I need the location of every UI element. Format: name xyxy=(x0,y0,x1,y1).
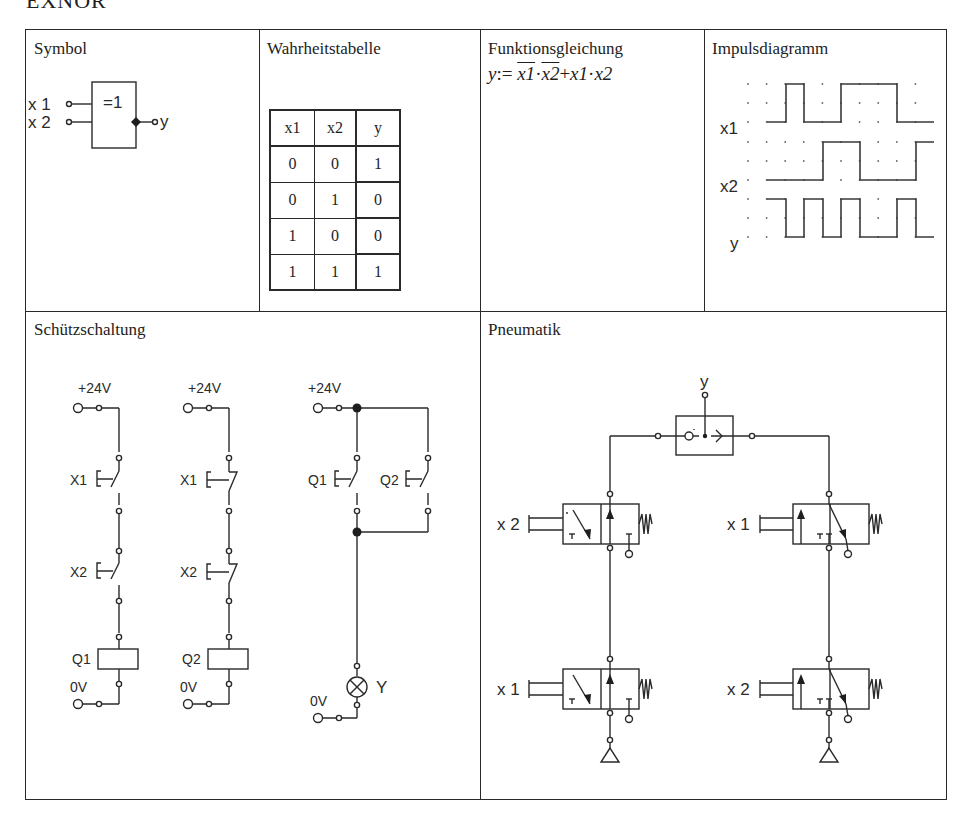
signal-x1-trace xyxy=(767,84,934,122)
page-title: EXNOR xyxy=(26,0,107,14)
supply-plus-label-3: +24V xyxy=(308,380,342,396)
branch-3 xyxy=(314,404,431,723)
cell-symbol: Symbol =1 x 1 x 2 y xyxy=(26,30,259,311)
flow-arrow-icon xyxy=(584,694,591,704)
eq-term1-a: x1 xyxy=(517,63,535,84)
table-row: 1 0 0 xyxy=(270,218,400,254)
valve-label-upper-left: x 2 xyxy=(497,515,520,534)
flow-arrow-icon xyxy=(606,509,614,519)
input-label-x2: x 2 xyxy=(28,113,51,132)
negation-dot-icon xyxy=(131,117,141,127)
valve-label-lower-right: x 2 xyxy=(727,680,750,699)
contact-label: Q2 xyxy=(380,472,399,488)
supply-plus-label-2: +24V xyxy=(188,380,222,396)
function-equation-title: Funktionsgleichung xyxy=(488,39,623,59)
eq-term2-b: x2 xyxy=(594,63,612,84)
pneumatics-diagram: y x 2 x 1 x 1 x 2 xyxy=(480,311,946,799)
coil-label-q2: Q2 xyxy=(182,651,201,667)
cell-x2: 1 xyxy=(315,254,357,290)
junction-dot-icon xyxy=(353,528,362,537)
contact-label: X2 xyxy=(70,564,87,580)
table-row: 1 1 1 xyxy=(270,254,400,290)
cell-y: 0 xyxy=(356,182,400,218)
cell-truth-table: Wahrheitstabelle x1 x2 y 0 0 1 0 1 0 1 0… xyxy=(259,30,480,311)
cell-x1: 0 xyxy=(270,146,315,182)
exnor-overview-grid: Symbol =1 x 1 x 2 y Wahrheitstabelle x1 xyxy=(25,29,947,800)
cell-y: 1 xyxy=(356,254,400,290)
supply-zero-label-1: 0V xyxy=(70,679,88,695)
gate-label: =1 xyxy=(103,93,122,112)
header-x2: x2 xyxy=(315,110,357,146)
truth-table: x1 x2 y 0 0 1 0 1 0 1 0 0 1 1 1 xyxy=(269,109,401,291)
coil-label-q1: Q1 xyxy=(72,651,91,667)
signal-y-trace xyxy=(767,199,934,237)
valve-upper-right xyxy=(760,504,882,558)
supply-plus-label-1: +24V xyxy=(78,380,112,396)
pneumatic-output-label: y xyxy=(700,372,709,391)
coil-q1 xyxy=(98,649,138,669)
cell-x2: 0 xyxy=(315,146,357,182)
pressure-source-icon xyxy=(820,748,838,762)
contact-label: X2 xyxy=(180,564,197,580)
output-label-y: y xyxy=(160,112,169,131)
cell-x1: 0 xyxy=(270,182,315,218)
cell-x1: 1 xyxy=(270,254,315,290)
flow-arrow-icon xyxy=(797,674,805,684)
flow-arrow-icon xyxy=(606,674,614,684)
cell-function-equation: Funktionsgleichung y:= x1·x2+x1·x2 xyxy=(480,30,704,311)
contact-label: X1 xyxy=(180,472,197,488)
eq-term2-a: x1 xyxy=(570,63,588,84)
truth-table-title: Wahrheitstabelle xyxy=(267,39,381,59)
gate-box xyxy=(92,82,136,148)
nc-contact-x1 xyxy=(229,472,237,491)
flow-arrow-icon xyxy=(797,509,805,519)
flow-arrow-icon xyxy=(839,529,846,539)
flow-arrow-icon xyxy=(584,529,591,539)
contact-label: Q1 xyxy=(308,472,327,488)
supply-zero-label-3: 0V xyxy=(310,693,328,709)
junction-dot-icon xyxy=(353,404,362,413)
cell-contactor-circuit: Schützschaltung xyxy=(26,311,480,799)
input-label-x1: x 1 xyxy=(28,95,51,114)
cell-y: 1 xyxy=(356,146,400,182)
cell-y: 0 xyxy=(356,218,400,254)
signal-label-y: y xyxy=(730,234,739,253)
function-equation: y:= x1·x2+x1·x2 xyxy=(488,63,612,85)
eq-term1-b: x2 xyxy=(541,63,559,84)
table-row: 0 0 1 xyxy=(270,146,400,182)
cell-x2: 0 xyxy=(315,218,357,254)
pulse-grid xyxy=(747,83,916,238)
signal-label-x1: x1 xyxy=(720,119,738,138)
supply-zero-label-2: 0V xyxy=(180,679,198,695)
eq-assign: := xyxy=(496,63,512,84)
load-label-y: Y xyxy=(376,678,387,697)
contact-label: X1 xyxy=(70,472,87,488)
nc-contact-x2 xyxy=(229,564,237,583)
cell-pulse-diagram: Impulsdiagramm x1 x2 y xyxy=(704,30,946,311)
header-y: y xyxy=(356,110,400,146)
coil-q2 xyxy=(208,649,248,669)
header-x1: x1 xyxy=(270,110,315,146)
valve-label-lower-left: x 1 xyxy=(497,680,520,699)
cell-x1: 1 xyxy=(270,218,315,254)
table-row: 0 1 0 xyxy=(270,182,400,218)
signal-x2-trace xyxy=(767,142,934,180)
contactor-circuit-diagram: +24V +24V +24V X1 X2 X1 X2 Q1 Q2 Q1 Q2 Y… xyxy=(26,311,480,799)
shuttle-valve xyxy=(610,392,829,491)
cell-pneumatics: Pneumatik xyxy=(480,311,946,799)
flow-arrow-icon xyxy=(839,694,846,704)
pressure-source-icon xyxy=(601,748,619,762)
truth-table-header-row: x1 x2 y xyxy=(270,110,400,146)
cell-x2: 1 xyxy=(315,182,357,218)
valve-label-upper-right: x 1 xyxy=(727,515,750,534)
signal-label-x2: x2 xyxy=(720,177,738,196)
pulse-diagram-chart: x1 x2 y xyxy=(704,30,946,311)
valve-lower-right xyxy=(760,669,882,723)
exnor-gate-symbol: =1 x 1 x 2 y xyxy=(26,30,259,311)
eq-plus: + xyxy=(559,63,570,84)
